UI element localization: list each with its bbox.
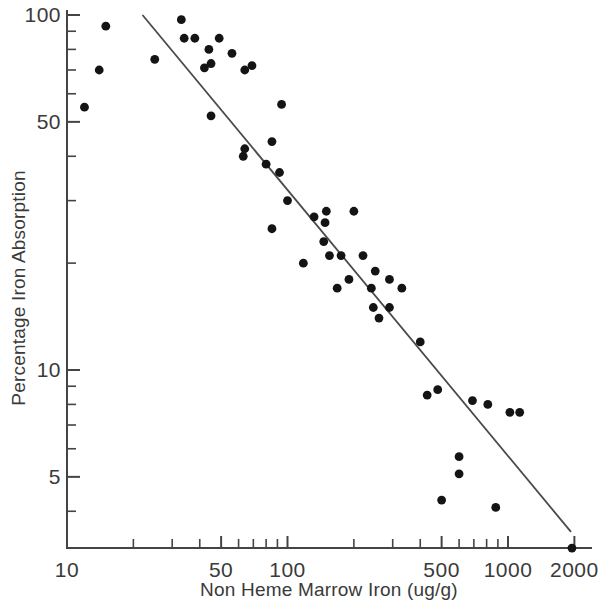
plot-canvas: 10050105 105010050010002000 Non Heme Mar… [0,0,601,602]
data-point [515,408,524,417]
x-tick-label-10: 10 [55,558,79,581]
data-point [299,259,308,268]
data-point [207,59,216,68]
data-point [283,196,292,205]
data-point [367,284,376,293]
x-tick-label-100: 100 [269,558,306,581]
data-point [337,251,346,260]
data-point [437,496,446,505]
data-point [204,45,213,54]
data-point [455,469,464,478]
x-tick-label-1000: 1000 [484,558,533,581]
data-point [321,218,330,227]
data-point [491,503,500,512]
data-point [397,284,406,293]
data-point [423,391,432,400]
y-axis-minor-ticks [67,31,76,511]
data-point [240,144,249,153]
data-point [568,544,577,553]
data-point [319,237,328,246]
data-point [325,251,334,260]
x-axis-tick-labels: 105010050010002000 [55,558,599,581]
y-tick-label-5: 5 [49,465,61,488]
data-point [207,111,216,120]
data-point [275,168,284,177]
y-axis-tick-labels: 10050105 [24,3,61,488]
data-point [371,267,380,276]
x-tick-label-2000: 2000 [550,558,599,581]
data-point [369,303,378,312]
data-point [277,100,286,109]
data-point [215,34,224,43]
data-point [416,337,425,346]
data-point [268,137,277,146]
data-point [505,408,514,417]
y-tick-label-100: 100 [24,3,61,26]
data-point [180,34,189,43]
data-point [101,22,110,31]
y-axis-title: Percentage Iron Absorption [8,170,29,405]
data-point [262,160,271,169]
data-point [80,103,89,112]
y-tick-label-10: 10 [37,358,61,381]
scatter-plot-figure: 10050105 105010050010002000 Non Heme Mar… [0,0,601,602]
data-point [349,207,358,216]
x-axis-minor-ticks [133,539,498,548]
data-point [375,314,384,323]
data-point [177,15,186,24]
data-point [433,385,442,394]
data-point [228,49,237,58]
data-point-group [80,15,576,552]
data-point [345,275,354,284]
data-point [268,224,277,233]
data-point [190,34,199,43]
data-point [322,207,331,216]
regression-line [143,15,571,532]
y-tick-label-50: 50 [37,110,61,133]
data-point [333,284,342,293]
data-point [385,275,394,284]
x-axis-title: Non Heme Marrow Iron (ug/g) [200,579,458,600]
data-point [150,55,159,64]
data-point [239,152,248,161]
data-point [385,303,394,312]
x-tick-label-500: 500 [423,558,460,581]
x-tick-label-50: 50 [209,558,233,581]
data-point [359,251,368,260]
data-point [310,212,319,221]
y-axis-major-ticks [67,15,80,477]
data-point [455,452,464,461]
data-point [468,396,477,405]
data-point [248,61,257,70]
axis-lines [67,11,591,548]
data-point [483,400,492,409]
data-point [95,66,104,75]
